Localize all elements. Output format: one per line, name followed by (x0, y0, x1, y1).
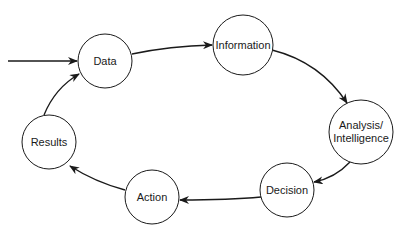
edge-decision-to-action (180, 197, 261, 200)
edge-analysis-to-decision (314, 162, 350, 182)
label-information: Information (215, 39, 270, 52)
edge-data-to-information (132, 45, 212, 54)
label-action: Action (137, 191, 168, 204)
label-analysis-line1: Analysis/ (333, 119, 389, 132)
edge-results-to-data (44, 74, 79, 115)
edge-action-to-results (70, 166, 125, 190)
label-analysis-line2: Intelligence (333, 132, 389, 145)
label-analysis: Analysis/ Intelligence (333, 119, 389, 145)
label-decision: Decision (266, 184, 308, 197)
edge-information-to-analysis (272, 50, 347, 103)
label-results: Results (31, 136, 68, 149)
label-data: Data (93, 55, 116, 68)
